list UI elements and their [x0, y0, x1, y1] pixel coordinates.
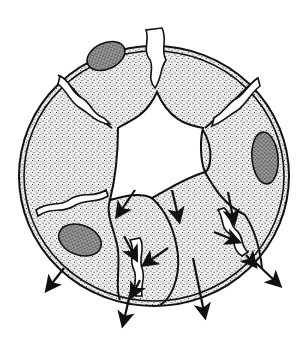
arrow-10	[255, 262, 276, 282]
arrow-7	[50, 268, 64, 286]
cell-ring-diagram	[0, 0, 307, 337]
